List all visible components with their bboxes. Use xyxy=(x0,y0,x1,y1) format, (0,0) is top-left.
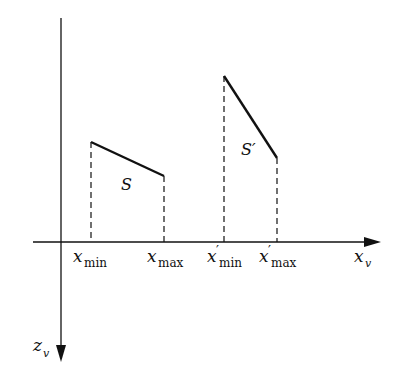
tick-x-max: x max xyxy=(147,246,184,270)
svg-text:v: v xyxy=(365,257,372,270)
svg-text:max: max xyxy=(271,256,297,270)
svg-text:z: z xyxy=(32,335,43,355)
label-s: S xyxy=(121,175,132,194)
label-s-prime: S′ xyxy=(241,140,256,159)
x-axis-label: x v xyxy=(354,246,372,270)
svg-text:max: max xyxy=(158,256,184,270)
z-axis-arrow-icon xyxy=(56,345,66,362)
svg-text:x: x xyxy=(73,246,83,266)
tick-x-prime-min: x ′ min xyxy=(207,243,242,270)
diagram-canvas: S S′ x min x max x ′ min x ′ max x v z v xyxy=(0,0,395,387)
svg-text:min: min xyxy=(84,256,107,270)
svg-text:x: x xyxy=(354,246,364,266)
tick-x-prime-max: x ′ max xyxy=(259,243,297,270)
x-axis-arrow-icon xyxy=(364,237,381,247)
svg-text:v: v xyxy=(43,347,50,360)
svg-text:min: min xyxy=(219,256,242,270)
svg-text:x: x xyxy=(147,246,157,266)
segment-s xyxy=(91,142,164,176)
tick-x-min: x min xyxy=(73,246,107,270)
z-axis-label: z v xyxy=(32,335,50,360)
